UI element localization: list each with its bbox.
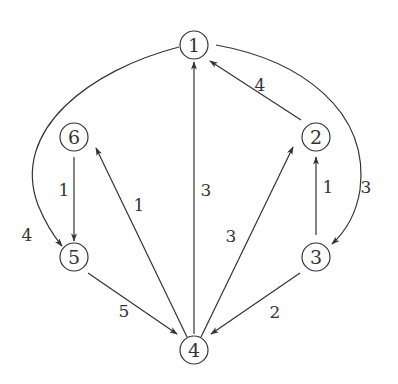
node-2-label: 2	[310, 126, 322, 148]
edge-4-to-6	[96, 148, 187, 337]
edge-label-3-4: 2	[270, 302, 281, 322]
node-5-label: 5	[68, 246, 80, 268]
edge-1-to-3	[216, 45, 361, 244]
node-3: 3	[302, 243, 330, 271]
node-1-label: 1	[188, 34, 200, 56]
edge-label-4-6: 1	[134, 195, 145, 215]
node-1: 1	[180, 31, 208, 59]
node-2: 2	[302, 123, 330, 151]
edge-1-to-5	[32, 47, 179, 246]
edge-label-2-1: 4	[255, 75, 266, 95]
node-4-label: 4	[188, 339, 200, 361]
graph-diagram: 4 1 1 3 3 4 1 3 5 2 1 2 3 4 5 6	[0, 0, 398, 384]
node-3-label: 3	[310, 246, 322, 268]
edge-label-6-5: 1	[59, 180, 70, 200]
edge-label-4-1: 3	[201, 180, 212, 200]
node-4: 4	[180, 336, 208, 364]
edge-label-1-5: 4	[22, 225, 33, 245]
edge-label-3-2: 1	[323, 177, 334, 197]
node-6-label: 6	[68, 126, 80, 148]
edge-label-4-2: 3	[226, 226, 237, 246]
edge-3-to-4	[211, 273, 300, 334]
edge-5-to-4	[88, 273, 177, 334]
node-5: 5	[60, 243, 88, 271]
node-6: 6	[60, 123, 88, 151]
edge-label-1-3: 3	[361, 177, 372, 197]
edge-label-5-4: 5	[119, 301, 130, 321]
